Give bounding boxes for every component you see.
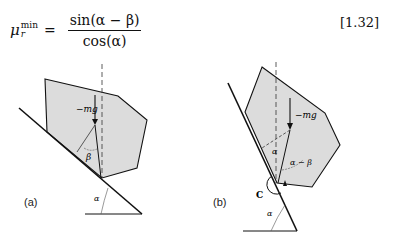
alpha-arc-a — [101, 188, 108, 214]
block-a — [45, 79, 147, 178]
figure-a-label: (a) — [24, 196, 37, 208]
alpha-label-a: α — [94, 194, 100, 203]
figures: −mg β α (a) −mg α α − β C α (b) — [0, 0, 393, 242]
alpha-arc-b — [271, 205, 285, 231]
alpha-minus-beta-label-b: α − β — [290, 158, 312, 167]
figure-b: −mg α α − β C α (b) — [213, 62, 340, 231]
figure-a: −mg β α (a) — [19, 64, 147, 214]
figure-b-label: (b) — [213, 196, 226, 208]
block-b — [245, 67, 340, 187]
beta-label-a: β — [85, 152, 91, 162]
alpha-label-b: α — [267, 209, 273, 218]
force-label-b: −mg — [295, 110, 317, 120]
force-label-a: −mg — [76, 104, 98, 114]
alpha-inner-label-b: α — [272, 147, 278, 156]
contact-label-b: C — [256, 190, 263, 200]
